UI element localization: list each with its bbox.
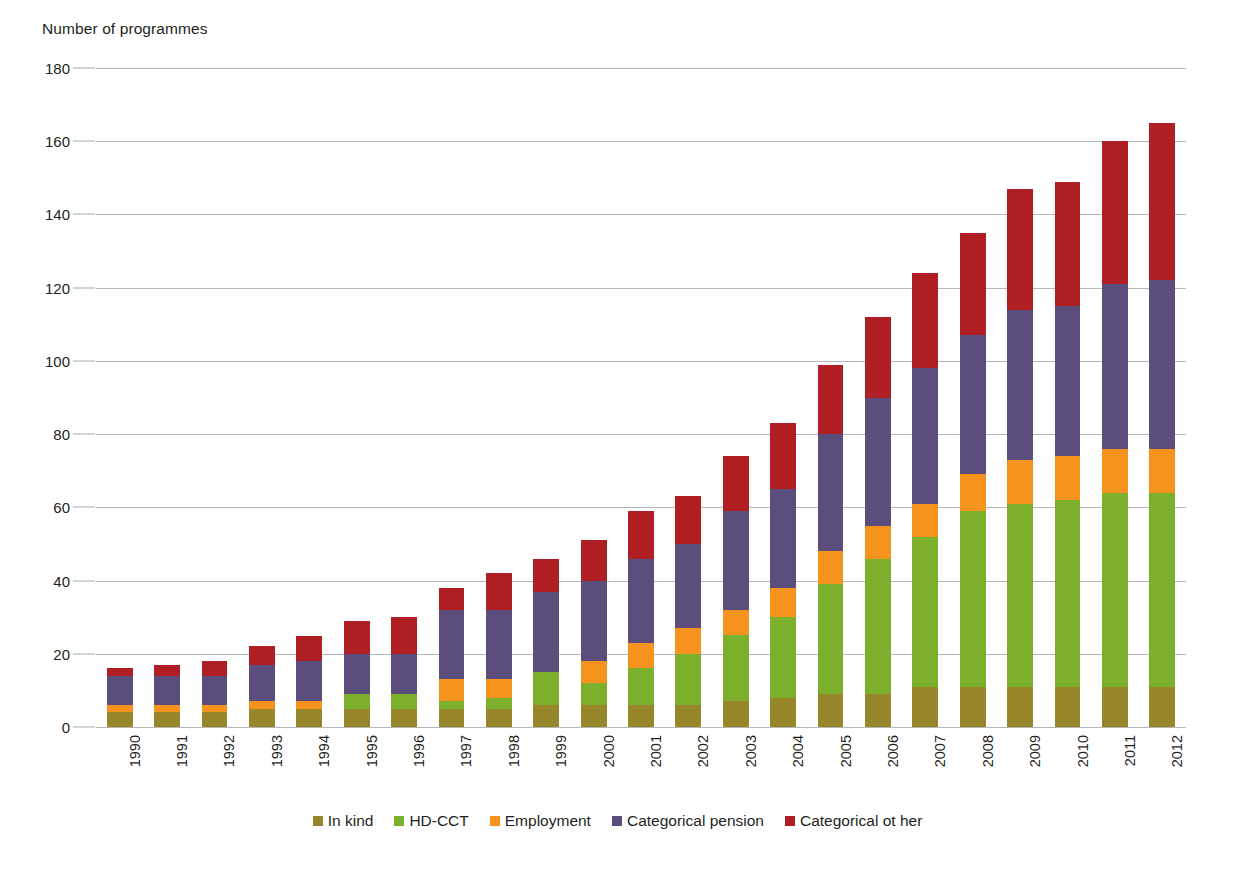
bar-segment[interactable] bbox=[1149, 493, 1175, 687]
bar-segment[interactable] bbox=[1149, 123, 1175, 280]
bar-segment[interactable] bbox=[1007, 310, 1033, 460]
bar-segment[interactable] bbox=[960, 335, 986, 474]
bar-segment[interactable] bbox=[486, 610, 512, 680]
bar-segment[interactable] bbox=[581, 705, 607, 727]
bar-1998[interactable] bbox=[486, 573, 512, 727]
bar-segment[interactable] bbox=[486, 709, 512, 727]
bar-2009[interactable] bbox=[1007, 189, 1033, 727]
bar-segment[interactable] bbox=[818, 551, 844, 584]
bar-segment[interactable] bbox=[581, 683, 607, 705]
bar-segment[interactable] bbox=[296, 701, 322, 708]
bar-segment[interactable] bbox=[628, 559, 654, 643]
bar-1997[interactable] bbox=[439, 588, 465, 727]
bar-segment[interactable] bbox=[628, 705, 654, 727]
bar-segment[interactable] bbox=[439, 709, 465, 727]
bar-segment[interactable] bbox=[1149, 449, 1175, 493]
bar-segment[interactable] bbox=[1055, 306, 1081, 456]
bar-segment[interactable] bbox=[1055, 687, 1081, 727]
bar-segment[interactable] bbox=[296, 636, 322, 662]
bar-2002[interactable] bbox=[675, 496, 701, 727]
bar-segment[interactable] bbox=[296, 661, 322, 701]
bar-segment[interactable] bbox=[344, 621, 370, 654]
bar-segment[interactable] bbox=[107, 676, 133, 705]
bar-2005[interactable] bbox=[818, 365, 844, 727]
bar-segment[interactable] bbox=[628, 643, 654, 669]
bar-segment[interactable] bbox=[249, 701, 275, 708]
bar-segment[interactable] bbox=[865, 317, 891, 398]
bar-segment[interactable] bbox=[533, 705, 559, 727]
bar-segment[interactable] bbox=[912, 273, 938, 368]
bar-2012[interactable] bbox=[1149, 123, 1175, 727]
bar-segment[interactable] bbox=[818, 694, 844, 727]
bar-segment[interactable] bbox=[1149, 280, 1175, 448]
bar-2006[interactable] bbox=[865, 317, 891, 727]
bar-segment[interactable] bbox=[439, 701, 465, 708]
bar-segment[interactable] bbox=[439, 610, 465, 680]
bar-segment[interactable] bbox=[202, 676, 228, 705]
bar-segment[interactable] bbox=[107, 712, 133, 727]
bar-segment[interactable] bbox=[154, 705, 180, 712]
bar-1994[interactable] bbox=[296, 635, 322, 727]
bar-segment[interactable] bbox=[960, 687, 986, 727]
bar-1991[interactable] bbox=[154, 665, 180, 727]
bar-2010[interactable] bbox=[1055, 182, 1081, 728]
bar-segment[interactable] bbox=[581, 661, 607, 683]
legend-item[interactable]: Employment bbox=[490, 812, 591, 830]
bar-segment[interactable] bbox=[865, 526, 891, 559]
bar-segment[interactable] bbox=[770, 489, 796, 588]
bar-2000[interactable] bbox=[581, 540, 607, 727]
bar-segment[interactable] bbox=[675, 544, 701, 628]
bar-segment[interactable] bbox=[581, 581, 607, 662]
bar-segment[interactable] bbox=[391, 694, 417, 709]
bar-segment[interactable] bbox=[439, 588, 465, 610]
bar-segment[interactable] bbox=[1055, 456, 1081, 500]
bar-segment[interactable] bbox=[865, 559, 891, 694]
bar-segment[interactable] bbox=[818, 434, 844, 551]
bar-segment[interactable] bbox=[344, 709, 370, 727]
bar-segment[interactable] bbox=[723, 635, 749, 701]
bar-segment[interactable] bbox=[391, 654, 417, 694]
bar-segment[interactable] bbox=[723, 701, 749, 727]
bar-segment[interactable] bbox=[628, 668, 654, 705]
bar-segment[interactable] bbox=[439, 679, 465, 701]
bar-segment[interactable] bbox=[154, 665, 180, 676]
bar-segment[interactable] bbox=[770, 588, 796, 617]
bar-segment[interactable] bbox=[486, 573, 512, 610]
bar-segment[interactable] bbox=[296, 709, 322, 727]
bar-segment[interactable] bbox=[960, 233, 986, 336]
bar-segment[interactable] bbox=[770, 617, 796, 698]
bar-2011[interactable] bbox=[1102, 141, 1128, 727]
bar-segment[interactable] bbox=[391, 617, 417, 654]
bar-segment[interactable] bbox=[912, 537, 938, 687]
bar-segment[interactable] bbox=[865, 694, 891, 727]
bar-segment[interactable] bbox=[675, 654, 701, 705]
bar-segment[interactable] bbox=[1102, 493, 1128, 687]
bar-segment[interactable] bbox=[1102, 141, 1128, 284]
bar-2008[interactable] bbox=[960, 233, 986, 727]
bar-segment[interactable] bbox=[202, 705, 228, 712]
bar-segment[interactable] bbox=[675, 496, 701, 544]
bar-segment[interactable] bbox=[723, 610, 749, 636]
bar-2007[interactable] bbox=[912, 273, 938, 727]
bar-segment[interactable] bbox=[1007, 687, 1033, 727]
bar-segment[interactable] bbox=[486, 679, 512, 697]
bar-2001[interactable] bbox=[628, 511, 654, 727]
bar-1995[interactable] bbox=[344, 621, 370, 727]
bar-segment[interactable] bbox=[391, 709, 417, 727]
bar-segment[interactable] bbox=[818, 584, 844, 694]
bar-segment[interactable] bbox=[912, 687, 938, 727]
bar-1999[interactable] bbox=[533, 559, 559, 727]
bar-segment[interactable] bbox=[154, 712, 180, 727]
legend-item[interactable]: Categorical pension bbox=[612, 812, 764, 830]
bar-segment[interactable] bbox=[249, 709, 275, 727]
bar-segment[interactable] bbox=[1007, 504, 1033, 687]
bar-segment[interactable] bbox=[770, 423, 796, 489]
bar-segment[interactable] bbox=[107, 705, 133, 712]
bar-segment[interactable] bbox=[675, 628, 701, 654]
bar-segment[interactable] bbox=[344, 654, 370, 694]
bar-segment[interactable] bbox=[249, 646, 275, 664]
bar-segment[interactable] bbox=[533, 672, 559, 705]
bar-segment[interactable] bbox=[1102, 687, 1128, 727]
bar-segment[interactable] bbox=[581, 540, 607, 580]
bar-segment[interactable] bbox=[533, 559, 559, 592]
